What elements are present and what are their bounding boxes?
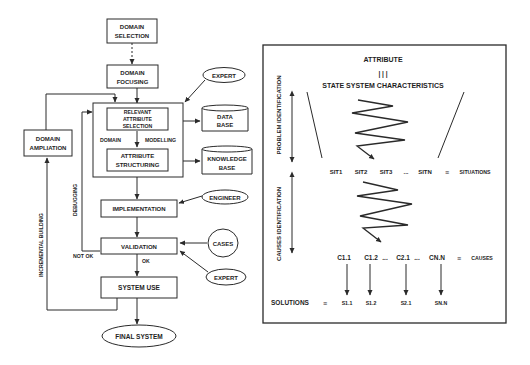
funnel-right-line [438,92,464,158]
solution-item: S2.1 [401,300,412,306]
situations-label: SITUATIONS [459,169,491,175]
equivalence-bars: | | | [378,70,387,78]
engineer-ellipse: ENGINEER [202,190,248,204]
cause-item: C2.1 [396,254,410,261]
left-flowchart: DOMAIN SELECTION DOMAIN FOCUSING EXPERT … [24,19,252,347]
domain-selection-box: DOMAIN SELECTION [107,19,157,43]
attribute-heading: ATTRIBUTE [363,56,402,63]
situation-ellipsis: ... [403,169,408,175]
data-base-cylinder: DATA BASE [202,105,248,131]
cause-item: C1.1 [337,254,351,261]
causes-label: CAUSES [471,255,493,261]
right-panel: ATTRIBUTE | | | STATE SYSTEM CHARACTERIS… [263,45,506,323]
causes-row: C1.1 C1.2 ... C2.1 ... CN.N ≡ CAUSES [337,254,493,262]
domain-selection-label-line2: SELECTION [115,33,149,39]
domain-ampliation-box: DOMAIN AMPLIATION [24,130,72,156]
domain-modelling-label-right: MODELLING [145,137,176,143]
validation-label: VALIDATION [121,244,157,250]
domain-selection-label-line1: DOMAIN [120,24,144,30]
zigzag-problem-identification-arrow [352,100,408,159]
situations-row: SIT1 SIT2 SIT3 ... SITN ≡ SITUATIONS [330,169,491,176]
ok-label: OK [142,258,150,264]
situation-item: SITN [418,169,432,175]
knowledge-base-line2: BASE [219,165,236,171]
solutions-row: SOLUTIONS ≡ S1.1 S1.2 S2.1 SN.N [271,299,447,307]
equiv-symbol-causes: ≡ [457,255,461,262]
solutions-label: SOLUTIONS [271,299,310,306]
arrow-expert-to-modelling [185,80,205,102]
validation-box: VALIDATION [101,238,177,254]
implementation-box: IMPLEMENTATION [101,200,177,217]
equiv-symbol-solutions: ≡ [323,300,327,307]
cause-ellipsis: ... [382,254,388,261]
final-system-label: FINAL SYSTEM [115,333,163,340]
final-system-ellipse: FINAL SYSTEM [102,325,176,347]
cause-ellipsis: ... [414,254,420,261]
equiv-symbol-situations: ≡ [445,169,449,176]
zigzag-causes-identification-arrow [357,182,412,242]
relevant-attribute-selection-line3: SELECTION [123,123,153,129]
relevant-attribute-selection-box: RELEVANT ATTRIBUTE SELECTION [107,108,168,130]
solution-item: SN.N [435,300,448,306]
domain-focusing-box: DOMAIN FOCUSING [107,65,158,88]
relevant-attribute-selection-line1: RELEVANT [124,109,152,115]
attribute-structuring-line1: ATTRIBUTE [121,153,155,159]
engineer-label: ENGINEER [209,195,241,201]
expert-bottom-label: EXPERT [214,275,238,281]
expert-top-ellipse: EXPERT [203,68,245,83]
domain-focusing-label-line2: FOCUSING [117,79,149,85]
attribute-structuring-box: ATTRIBUTE STRUCTURING [107,149,168,171]
cause-item: CN.N [429,254,445,261]
implementation-label: IMPLEMENTATION [112,206,165,212]
attribute-structuring-line2: STRUCTURING [116,162,160,168]
knowledge-base-line1: KNOWLEDGE [207,156,247,162]
situation-item: SIT2 [355,169,368,175]
arrow-expert-to-validation [180,251,208,272]
data-base-line2: BASE [217,122,234,128]
system-use-box: SYSTEM USE [101,277,177,298]
not-ok-label: NOT OK [73,253,93,259]
state-system-characteristics-heading: STATE SYSTEM CHARACTERISTICS [322,82,444,89]
situation-item: SIT1 [330,169,343,175]
expert-bottom-ellipse: EXPERT [206,269,246,285]
knowledge-engineering-diagram: DOMAIN SELECTION DOMAIN FOCUSING EXPERT … [0,0,530,365]
situation-item: SIT3 [380,169,393,175]
domain-ampliation-line1: DOMAIN [36,136,60,142]
incremental-building-label: INCREMENTAL BUILDING [38,213,44,277]
debugging-label: DEBUGGING [72,184,78,216]
knowledge-base-cylinder: KNOWLEDGE BASE [202,146,252,174]
expert-top-label: EXPERT [212,73,236,79]
cases-circle: CASES [208,229,238,257]
cause-item: C1.2 [364,254,378,261]
domain-ampliation-line2: AMPLIATION [30,145,67,151]
solution-item: S1.2 [366,300,377,306]
solution-item: S1.1 [342,300,353,306]
relevant-attribute-selection-line2: ATTRIBUTE [123,116,153,122]
funnel-left-line [307,92,322,158]
domain-modelling-label-left: DOMAIN [100,137,121,143]
system-use-label: SYSTEM USE [118,284,161,291]
data-base-line1: DATA [217,114,233,120]
cases-label: CASES [213,241,234,247]
domain-focusing-label-line1: DOMAIN [120,70,144,76]
arrow-engineer-to-implementation [179,196,202,203]
problem-identification-label: PROBLEM IDENTIFICATION [276,75,282,154]
causes-identification-label: CAUSES IDENTIFICATION [276,187,282,261]
